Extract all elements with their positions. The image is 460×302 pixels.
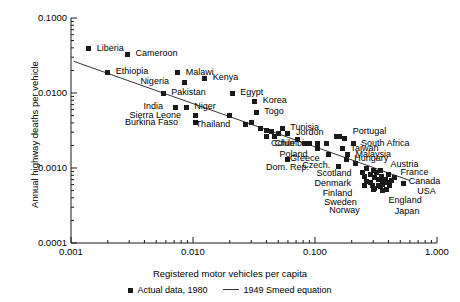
data-point-poland [315,146,320,151]
data-point-hungary [344,157,349,162]
point-label-japan: Japan [395,207,420,216]
chart-legend: Actual data, 1980 1949 Smeed equation [0,285,460,295]
data-point-thailand [243,122,248,127]
x-tick-label: 0.010 [163,246,223,257]
data-point [389,178,394,183]
data-point-pakistan [161,91,166,96]
legend-item-actual-data: Actual data, 1980 [128,285,207,295]
smeed-scatter-figure: 0.10000.01000.00100.0001 0.0010.0100.100… [0,0,460,302]
data-point-egypt [230,91,235,96]
data-point [307,141,312,146]
point-label-korea: Korea [263,96,287,105]
data-point [368,172,373,177]
data-point-greece [326,152,331,157]
point-label-liberia: Liberia [97,44,124,53]
point-label-denmark: Denmark [315,179,352,188]
data-point [295,137,300,142]
data-point-ethiopia [105,70,110,75]
data-point [264,134,269,139]
point-label-nigeria: Nigeria [140,77,169,86]
data-point [324,141,329,146]
y-axis-title: Annual highway deaths per vehicle [29,35,40,235]
x-tick-label: 0.100 [285,246,345,257]
legend-label-smeed-equation: 1949 Smeed equation [243,285,331,295]
data-point [258,126,263,131]
square-marker-icon [128,288,133,293]
data-point [276,131,281,136]
legend-item-smeed-equation: 1949 Smeed equation [223,285,331,295]
point-label-togo: Togo [264,107,284,116]
data-point-portugal [342,136,347,141]
point-label-cameroon: Cameroon [135,49,177,58]
data-point [353,161,358,166]
data-point [372,186,377,191]
data-point [362,183,367,188]
point-label-canada: Canada [409,177,441,186]
line-marker-icon [223,289,239,290]
data-point-sierra-leone [193,113,198,118]
point-label-pakistan: Pakistan [171,88,206,97]
point-label-hungary: Hungary [354,154,388,163]
data-point-korea [252,99,257,104]
data-point-liberia [86,46,91,51]
x-axis-title: Registered motor vehicles per capita [0,268,460,279]
x-tick-label: 1.000 [407,246,460,257]
point-label-thailand: Thailand [196,120,231,129]
data-point-togo [254,110,259,115]
data-point [227,113,232,118]
data-point [269,129,274,134]
data-point-niger [184,105,189,110]
point-label-portugal: Portugal [353,127,387,136]
x-tick-label: 0.001 [41,246,101,257]
data-point-jordon [285,131,290,136]
data-point [249,120,254,125]
legend-label-actual-data: Actual data, 1980 [137,285,207,295]
data-point [368,180,373,185]
data-point [380,179,385,184]
point-label-jordon: Jordon [296,128,324,137]
point-label-egypt: Egypt [240,88,263,97]
point-label-england: England [389,196,422,205]
data-point-taiwan [340,146,345,151]
data-point-nigeria [182,80,187,85]
point-label-burkina-faso: Burkina Faso [125,118,178,127]
data-point-kenya [202,76,207,81]
data-point-malawi [175,70,180,75]
data-point [384,187,389,192]
data-point-india [173,105,178,110]
point-label-ethiopia: Ethiopia [116,67,149,76]
y-tick-label: 0.1000 [7,12,67,23]
data-point [364,166,369,171]
data-point-usa [401,181,406,186]
data-point-cameroon [125,52,130,57]
data-point [315,141,320,146]
point-label-niger: Niger [194,102,216,111]
point-label-kenya: Kenya [213,73,239,82]
point-label-chile: Chile [274,139,295,148]
data-point [337,134,342,139]
point-label-norway: Norway [329,206,360,215]
point-label-scotland: Scotland [316,169,351,178]
point-label-malawi: Malawi [186,68,214,77]
